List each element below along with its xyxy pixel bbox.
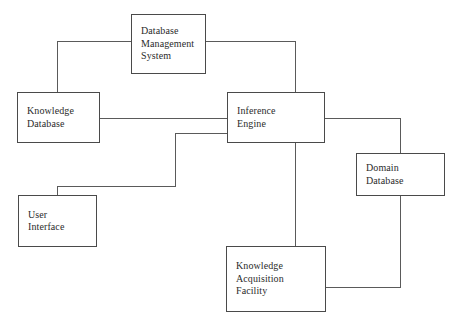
node-inference-engine[interactable]: Inference Engine: [227, 92, 325, 143]
connector-inference-engine-to-domain-database-segment-0: [325, 118, 401, 119]
diagram-canvas: Database Management SystemKnowledge Data…: [0, 0, 460, 329]
node-label-user-interface: User Interface: [19, 209, 96, 234]
connector-dms-to-knowledge-database-segment-1: [57, 41, 58, 93]
node-domain-database[interactable]: Domain Database: [356, 153, 445, 196]
node-label-domain-database: Domain Database: [357, 162, 444, 187]
connector-dms-to-inference-engine-segment-0: [206, 41, 296, 42]
connector-inference-engine-to-user-interface-segment-2: [57, 186, 176, 187]
node-label-inference-engine: Inference Engine: [228, 105, 324, 130]
connector-domain-database-to-knowledge-acquisition-facility-segment-0: [400, 196, 401, 288]
node-label-knowledge-acquisition-facility: Knowledge Acquisition Facility: [227, 260, 325, 298]
node-user-interface[interactable]: User Interface: [18, 195, 97, 247]
connector-knowledge-database-to-inference-engine-segment-0: [100, 118, 228, 119]
connector-dms-to-knowledge-database-segment-0: [57, 41, 131, 42]
node-label-knowledge-database: Knowledge Database: [18, 105, 99, 130]
node-knowledge-acquisition-facility[interactable]: Knowledge Acquisition Facility: [226, 246, 326, 312]
node-database-management-system[interactable]: Database Management System: [131, 14, 206, 74]
node-label-database-management-system: Database Management System: [132, 25, 205, 63]
connector-inference-engine-to-user-interface-segment-0: [175, 133, 228, 134]
connector-inference-engine-to-knowledge-acquisition-facility-segment-0: [295, 143, 296, 247]
connector-inference-engine-to-user-interface-segment-1: [175, 133, 176, 187]
connector-inference-engine-to-domain-database-segment-1: [400, 118, 401, 154]
connector-domain-database-to-knowledge-acquisition-facility-segment-1: [326, 287, 401, 288]
node-knowledge-database[interactable]: Knowledge Database: [17, 92, 100, 143]
connector-dms-to-inference-engine-segment-1: [295, 41, 296, 93]
